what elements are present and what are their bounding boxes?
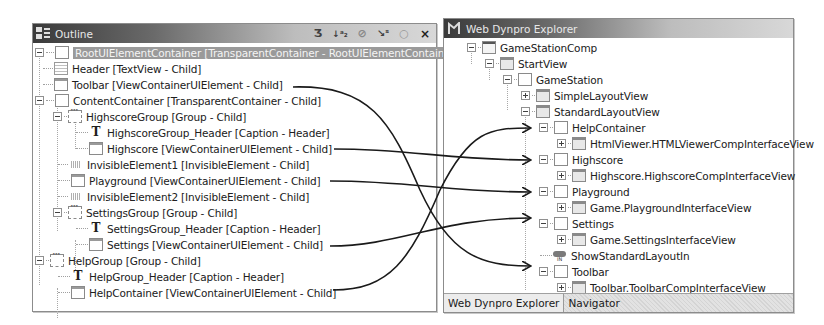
caption-icon: T [89,126,103,139]
view-container-icon [89,238,103,251]
wd-node-gamestation[interactable]: GameStation [503,72,603,87]
collapse-icon[interactable] [539,219,548,228]
interface-view-icon [572,137,586,150]
collapse-icon[interactable] [485,59,494,68]
collapse-icon[interactable] [503,75,512,84]
outline-node-highscoregroup-header[interactable]: T HighscoreGroup_Header [Caption - Heade… [76,125,330,140]
outline-node-highscoregroup[interactable]: HighscoreGroup [Group - Child] [53,109,246,124]
outline-node-helpgroup-header[interactable]: T HelpGroup_Header [Caption - Header] [58,269,284,284]
view-container-icon [54,78,68,91]
view-container-icon [554,265,568,278]
view-icon [536,105,550,118]
outline-node-helpgroup[interactable]: HelpGroup [Group - Child] [35,253,201,268]
wd-node-standardlayoutview[interactable]: StandardLayoutView [521,104,660,119]
expand-icon[interactable] [557,235,566,244]
outline-titlebar: Outline Ʒ ↓ᵃ₂ ⊘ ↘ˢ ○ × [33,24,436,43]
circle-icon[interactable]: ○ [397,27,411,41]
group-icon [68,110,82,123]
tab-navigator[interactable]: Navigator [564,294,623,312]
expand-icon[interactable] [521,91,530,100]
outline-node-root[interactable]: RootUIElementContainer [TransparentConta… [35,45,461,60]
collapse-icon[interactable] [53,112,62,121]
wd-node-highscore[interactable]: Highscore [539,152,623,167]
textview-icon [54,62,68,75]
component-icon [482,41,496,54]
wd-node-settings-interfaceview[interactable]: Game.SettingsInterfaceView [557,232,736,247]
wd-node-playground-interfaceview[interactable]: Game.PlaygroundInterfaceView [557,200,751,215]
expand-icon[interactable] [557,171,566,180]
wd-node-helpcontainer[interactable]: HelpContainer [539,120,645,135]
expand-icon[interactable] [557,283,566,292]
wd-title: Web Dynpro Explorer [466,23,577,35]
outline-node-settings[interactable]: Settings [ViewContainerUIElement - Child… [76,237,323,252]
interface-view-icon [572,233,586,246]
wd-node-showstandardlayoutin[interactable]: ShowStandardLayoutIn [540,248,690,263]
view-container-icon [89,142,103,155]
wd-node-highscore-interfaceview[interactable]: Highscore.HighscoreCompInterfaceView [557,168,795,183]
wd-node-playground[interactable]: Playground [539,184,630,199]
wd-titlebar: Web Dynpro Explorer [444,19,793,38]
view-icon [500,57,514,70]
caption-icon: T [89,222,103,235]
tree-guide [525,114,526,290]
outline-node-helpcontainer[interactable]: HelpContainer [ViewContainerUIElement - … [58,285,336,300]
wd-tab-bar: Web Dynpro Explorer Navigator [444,293,793,312]
group-icon [68,206,82,219]
wd-node-htmlviewer-interfaceview[interactable]: HtmlViewer.HTMLViewerCompInterfaceView [557,136,814,151]
transparent-container-icon [55,94,69,107]
outline-node-settingsgroup-header[interactable]: T SettingsGroup_Header [Caption - Header… [76,221,320,236]
collapse-icon[interactable] [35,256,44,265]
view-container-icon [554,217,568,230]
collapse-icon[interactable] [521,107,530,116]
outline-node-invisibleelement1[interactable]: InvisibleElement1 [InvisibleElement - Ch… [58,157,309,172]
view-container-icon [554,185,568,198]
sort-alpha-icon[interactable]: ↓ᵃ₂ [332,27,348,41]
web-dynpro-explorer-panel: Web Dynpro Explorer GameStationComp Star… [443,18,794,313]
outline-title: Outline [55,28,93,40]
wand-icon[interactable]: ↘ˢ [376,27,390,41]
collapse-icon[interactable] [35,48,44,57]
outline-view-icon [35,27,51,41]
wd-node-simplelayoutview[interactable]: SimpleLayoutView [521,88,648,103]
outline-node-playground[interactable]: Playground [ViewContainerUIElement - Chi… [58,173,321,188]
view-icon [536,89,550,102]
expand-icon[interactable] [557,203,566,212]
outline-panel: Outline Ʒ ↓ᵃ₂ ⊘ ↘ˢ ○ × RootUIElementCont… [32,23,437,312]
outline-node-invisibleelement2[interactable]: InvisibleElement2 [InvisibleElement - Ch… [58,189,309,204]
outline-toolbar: Ʒ ↓ᵃ₂ ⊘ ↘ˢ ○ × [311,24,432,43]
collapse-icon[interactable] [53,208,62,217]
web-dynpro-explorer-icon [446,22,462,36]
outline-node-highscore[interactable]: Highscore [ViewContainerUIElement - Chil… [76,141,332,156]
collapse-icon[interactable] [539,187,548,196]
close-icon[interactable]: × [418,27,432,41]
collapse-icon[interactable] [539,267,548,276]
wd-node-toolbar[interactable]: Toolbar [539,264,609,279]
view-container-icon [71,286,85,299]
view-container-icon [71,174,85,187]
wd-node-gamestationcomp[interactable]: GameStationComp [467,40,597,55]
expand-icon[interactable] [557,139,566,148]
collapse-icon[interactable] [539,155,548,164]
outline-node-header[interactable]: Header [TextView - Child] [43,61,201,76]
filter-icon[interactable]: ⊘ [355,27,369,41]
wd-node-startview[interactable]: StartView [485,56,567,71]
invisible-element-icon [71,161,81,168]
view-container-icon [554,121,568,134]
outline-node-settingsgroup[interactable]: SettingsGroup [Group - Child] [53,205,237,220]
refresh-icon[interactable]: Ʒ [311,27,325,41]
inbound-plug-icon [553,249,567,262]
tab-web-dynpro-explorer[interactable]: Web Dynpro Explorer [444,294,564,312]
group-icon [50,254,64,267]
window-icon [518,73,532,86]
invisible-element-icon [71,193,81,200]
collapse-icon[interactable] [35,96,44,105]
tree-guide [39,51,40,285]
transparent-container-icon [55,46,69,59]
outline-node-toolbar[interactable]: Toolbar [ViewContainerUIElement - Child] [43,77,283,92]
view-container-icon [554,153,568,166]
collapse-icon[interactable] [539,123,548,132]
interface-view-icon [572,169,586,182]
caption-icon: T [71,270,85,283]
wd-node-settings[interactable]: Settings [539,216,614,231]
collapse-icon[interactable] [467,43,476,52]
